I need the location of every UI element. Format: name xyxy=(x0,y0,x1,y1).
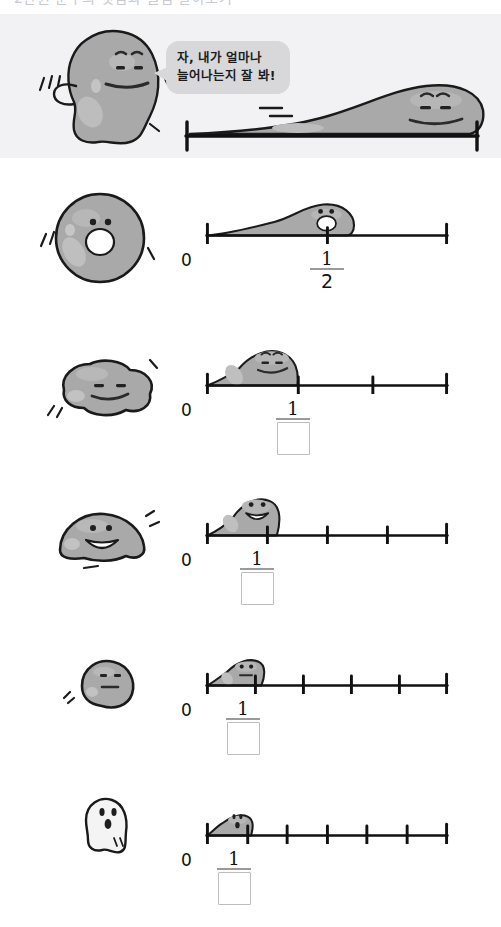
row-5-fraction: 1 xyxy=(214,850,254,905)
row-4-zero-label: 0 xyxy=(181,700,192,720)
row-3-numberline[interactable] xyxy=(180,484,480,544)
row-2-numberline-cell: 0 1 xyxy=(180,334,480,454)
row-2-character xyxy=(30,334,170,434)
row-2-zero-label: 0 xyxy=(181,400,192,420)
row-5-numberline-cell: 0 1 xyxy=(180,784,480,904)
exercise-row-1: 0 1 2 xyxy=(0,184,501,324)
exercise-row-4: 0 1 xyxy=(0,634,501,774)
exercise-row-3: 0 1 xyxy=(0,484,501,624)
row-3-character xyxy=(30,484,170,584)
exercise-row-2: 0 1 xyxy=(0,334,501,474)
row-5-zero-label: 0 xyxy=(181,850,192,870)
row-1-denominator: 2 xyxy=(307,270,347,292)
row-4-denominator-answer-box[interactable] xyxy=(227,722,260,755)
row-4-numerator: 1 xyxy=(223,700,263,717)
row-3-fraction: 1 xyxy=(237,550,277,605)
row-1-numberline-cell: 0 1 2 xyxy=(180,184,480,304)
top-banner: 자, 내가 얼마나 늘어나는지 잘 봐! xyxy=(0,14,501,158)
row-1-character xyxy=(30,184,170,284)
row-1-zero-label: 0 xyxy=(181,250,192,270)
banner-stretched-character xyxy=(178,36,498,154)
row-4-numberline[interactable] xyxy=(180,634,480,694)
row-2-denominator-answer-box[interactable] xyxy=(277,422,310,455)
row-1-numberline[interactable] xyxy=(180,184,480,244)
cutoff-header-strip: 2단원 분수의 덧셈과 뺄셈 알아보기 xyxy=(0,0,501,12)
row-5-numberline[interactable] xyxy=(180,784,480,844)
row-2-numerator: 1 xyxy=(273,400,313,417)
row-3-numberline-cell: 0 1 xyxy=(180,484,480,604)
exercise-row-5: 0 1 xyxy=(0,784,501,927)
row-4-fraction: 1 xyxy=(223,700,263,755)
row-1-numerator: 1 xyxy=(307,250,347,267)
row-2-fraction: 1 xyxy=(273,400,313,455)
row-3-numerator: 1 xyxy=(237,550,277,567)
row-1-fraction: 1 2 xyxy=(307,250,347,292)
row-4-numberline-cell: 0 1 xyxy=(180,634,480,754)
row-5-character xyxy=(30,784,170,884)
row-2-numberline[interactable] xyxy=(180,334,480,394)
row-4-character xyxy=(30,634,170,734)
cutoff-header-text: 2단원 분수의 덧셈과 뺄셈 알아보기 xyxy=(14,0,232,7)
row-5-numerator: 1 xyxy=(214,850,254,867)
row-3-denominator-answer-box[interactable] xyxy=(241,572,274,605)
banner-left-character xyxy=(30,20,180,150)
row-3-zero-label: 0 xyxy=(181,550,192,570)
row-5-denominator-answer-box[interactable] xyxy=(218,872,251,905)
